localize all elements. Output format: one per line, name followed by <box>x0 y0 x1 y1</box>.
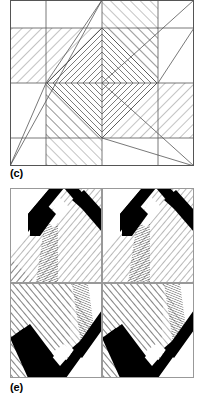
panel-e-drawing <box>10 188 194 378</box>
panel-c <box>10 0 194 166</box>
cell-bottom-left <box>10 283 102 378</box>
cell-bottom-right <box>102 283 194 378</box>
panel-e <box>10 188 194 378</box>
panel-c-label: (c) <box>10 168 23 179</box>
panel-e-label: (e) <box>10 382 23 393</box>
figure-root: (c) <box>0 0 204 405</box>
panel-c-drawing <box>10 0 194 166</box>
